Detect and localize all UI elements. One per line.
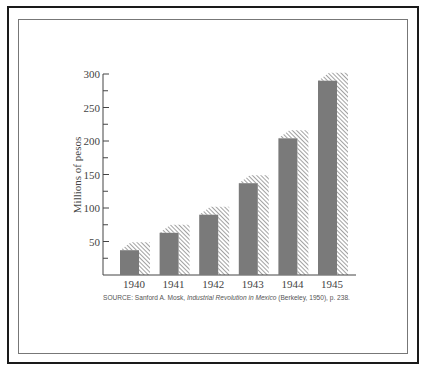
y-tick-label: 200	[84, 135, 101, 147]
bar-side-face	[297, 130, 308, 275]
bar-1941: 1941	[160, 225, 190, 290]
bar-1942: 1942	[199, 207, 229, 290]
bars: 194019411942194319441945	[120, 73, 348, 290]
bar-chart: 50100150200250300 1940194119421943194419…	[0, 0, 423, 370]
x-tick-label: 1944	[281, 278, 304, 290]
bar-front-face	[120, 250, 139, 275]
bar-front-face	[199, 215, 218, 275]
bar-side-face	[258, 175, 269, 275]
bar-front-face	[160, 233, 179, 275]
x-tick-label: 1941	[163, 278, 185, 290]
source-title: Industrial Revolution in Mexico	[187, 294, 276, 301]
bar-1943: 1943	[239, 175, 269, 290]
x-tick-label: 1943	[242, 278, 265, 290]
bar-1944: 1944	[278, 130, 308, 290]
y-tick-label: 100	[84, 202, 101, 214]
bar-side-face	[337, 73, 348, 275]
source-note: SOURCE: Sanford A. Mosk, Industrial Revo…	[103, 294, 350, 301]
y-tick-label: 300	[84, 68, 101, 80]
bar-side-face	[179, 225, 190, 275]
source-prefix: SOURCE: Sanford A. Mosk,	[103, 294, 187, 301]
y-tick-label: 150	[84, 169, 101, 181]
bar-front-face	[239, 183, 258, 275]
x-tick-label: 1942	[202, 278, 224, 290]
y-tick-label: 50	[89, 236, 101, 248]
source-suffix: (Berkeley, 1950), p. 238.	[276, 294, 350, 301]
bar-side-face	[218, 207, 229, 275]
y-tick-label: 250	[84, 102, 101, 114]
x-tick-label: 1945	[321, 278, 344, 290]
x-tick-label: 1940	[123, 278, 146, 290]
bar-front-face	[318, 81, 337, 275]
bar-1945: 1945	[318, 73, 348, 290]
bar-1940: 1940	[120, 242, 150, 290]
bar-front-face	[278, 138, 297, 275]
y-axis-label: Millions of pesos	[71, 137, 83, 213]
